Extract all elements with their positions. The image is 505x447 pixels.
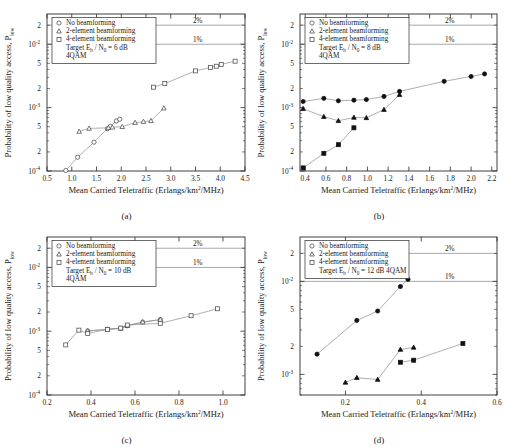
panel-a: 2%1%10-410-310-2252520.51.01.52.02.53.03…	[0, 0, 253, 223]
svg-text:1%: 1%	[193, 259, 203, 267]
svg-text:10-3: 10-3	[281, 369, 293, 379]
svg-text:0.6: 0.6	[130, 398, 140, 407]
svg-text:2.0: 2.0	[466, 174, 476, 183]
svg-text:10-3: 10-3	[28, 326, 40, 336]
svg-text:4-element beamforming: 4-element beamforming	[66, 258, 136, 266]
svg-text:1.5: 1.5	[92, 174, 102, 183]
svg-text:1%: 1%	[193, 36, 203, 44]
svg-text:0.8: 0.8	[342, 174, 352, 183]
svg-text:2: 2	[290, 21, 294, 30]
svg-text:10-2: 10-2	[28, 39, 40, 49]
svg-text:Probability of low quality acc: Probability of low quality access, Plow	[3, 251, 15, 381]
svg-text:2: 2	[37, 147, 41, 156]
svg-text:Probability of low quality acc: Probability of low quality access, Plow	[3, 27, 15, 157]
svg-text:5: 5	[37, 122, 41, 131]
svg-text:5: 5	[290, 59, 294, 68]
panel-c-plot: 2%1%10-410-310-2252520.20.40.60.81.0Mean…	[0, 223, 253, 447]
svg-text:2: 2	[290, 249, 294, 258]
svg-text:2-element beamforming: 2-element beamforming	[66, 27, 136, 35]
svg-text:2: 2	[37, 21, 41, 30]
svg-text:0.8: 0.8	[174, 398, 184, 407]
svg-text:10-4: 10-4	[28, 389, 40, 399]
svg-text:0.2: 0.2	[42, 398, 52, 407]
svg-text:4QAM: 4QAM	[319, 52, 340, 60]
svg-text:2: 2	[37, 244, 41, 253]
svg-text:10-2: 10-2	[281, 276, 293, 286]
svg-text:3.0: 3.0	[166, 174, 176, 183]
panel-a-caption: (a)	[0, 211, 253, 221]
svg-text:4QAM: 4QAM	[66, 275, 87, 283]
svg-text:Mean Carried Teletraffic (Erla: Mean Carried Teletraffic (Erlangs/km2/MH…	[321, 185, 476, 195]
svg-text:10-4: 10-4	[281, 165, 293, 175]
svg-text:2-element beamforming: 2-element beamforming	[66, 250, 136, 258]
svg-text:0.6: 0.6	[321, 174, 331, 183]
svg-text:No beamforming: No beamforming	[319, 19, 369, 27]
panel-b-plot: 2%1%10-410-310-2252520.40.60.81.01.21.41…	[253, 0, 505, 223]
svg-text:0.2: 0.2	[341, 398, 351, 407]
svg-text:Target Eb / N0 = 12 dB 4QAM: Target Eb / N0 = 12 dB 4QAM	[319, 267, 407, 276]
svg-text:1.0: 1.0	[218, 398, 228, 407]
panel-c-caption: (c)	[0, 435, 253, 445]
svg-text:4QAM: 4QAM	[66, 52, 87, 60]
svg-text:0.4: 0.4	[417, 398, 427, 407]
svg-text:2-element beamforming: 2-element beamforming	[319, 250, 389, 258]
svg-text:2%: 2%	[193, 17, 203, 25]
svg-text:2.2: 2.2	[487, 174, 497, 183]
svg-text:4-element beamforming: 4-element beamforming	[66, 35, 136, 43]
svg-text:3.5: 3.5	[191, 174, 201, 183]
svg-text:1.8: 1.8	[446, 174, 456, 183]
figure-grid: 2%1%10-410-310-2252520.51.01.52.02.53.03…	[0, 0, 505, 447]
svg-text:4-element beamforming: 4-element beamforming	[319, 35, 389, 43]
svg-text:1.4: 1.4	[404, 174, 414, 183]
svg-text:No beamforming: No beamforming	[319, 242, 369, 250]
panel-a-plot: 2%1%10-410-310-2252520.51.01.52.02.53.03…	[0, 0, 253, 223]
svg-text:5: 5	[290, 305, 294, 314]
svg-text:5: 5	[290, 122, 294, 131]
svg-text:Mean Carried Teletraffic (Erla: Mean Carried Teletraffic (Erlangs/km2/MH…	[68, 185, 223, 195]
svg-text:No beamforming: No beamforming	[66, 19, 116, 27]
svg-text:2: 2	[37, 307, 41, 316]
svg-text:Mean Carried Teletraffic (Erla: Mean Carried Teletraffic (Erlangs/km2/MH…	[68, 409, 223, 419]
svg-text:1.0: 1.0	[67, 174, 77, 183]
svg-text:5: 5	[37, 346, 41, 355]
svg-text:2-element beamforming: 2-element beamforming	[319, 27, 389, 35]
svg-text:1.6: 1.6	[425, 174, 435, 183]
panel-c: 2%1%10-410-310-2252520.20.40.60.81.0Mean…	[0, 223, 253, 447]
svg-text:0.4: 0.4	[86, 398, 96, 407]
svg-text:2%: 2%	[193, 240, 203, 248]
svg-text:2%: 2%	[445, 245, 455, 253]
svg-text:1%: 1%	[445, 36, 455, 44]
svg-text:2.0: 2.0	[117, 174, 127, 183]
panel-b-caption: (b)	[253, 211, 505, 221]
panel-d-plot: 2%1%10-310-22520.20.40.6Mean Carried Tel…	[253, 223, 505, 447]
svg-text:5: 5	[37, 282, 41, 291]
svg-text:0.6: 0.6	[492, 398, 502, 407]
svg-text:10-2: 10-2	[28, 262, 40, 272]
svg-text:10-2: 10-2	[281, 39, 293, 49]
svg-text:4.0: 4.0	[216, 174, 226, 183]
svg-text:2%: 2%	[445, 17, 455, 25]
svg-text:2.5: 2.5	[141, 174, 151, 183]
svg-text:Mean Carried Teletraffic (Erla: Mean Carried Teletraffic (Erlangs/km2/MH…	[321, 409, 476, 419]
svg-text:2: 2	[290, 84, 294, 93]
svg-text:1.2: 1.2	[384, 174, 394, 183]
svg-text:5: 5	[37, 59, 41, 68]
svg-text:2: 2	[290, 147, 294, 156]
svg-text:10-3: 10-3	[281, 102, 293, 112]
svg-text:Probability of low quality acc: Probability of low quality access, Plow	[256, 27, 268, 157]
svg-text:0.4: 0.4	[301, 174, 311, 183]
panel-d-caption: (d)	[253, 435, 505, 445]
svg-text:1.0: 1.0	[363, 174, 373, 183]
svg-text:2: 2	[290, 342, 294, 351]
svg-text:4-element beamforming: 4-element beamforming	[319, 258, 389, 266]
panel-b: 2%1%10-410-310-2252520.40.60.81.01.21.41…	[253, 0, 505, 223]
svg-text:0.5: 0.5	[42, 174, 52, 183]
svg-text:Probability of low quality acc: Probability of low quality access, Plow	[256, 251, 268, 381]
panel-d: 2%1%10-310-22520.20.40.6Mean Carried Tel…	[253, 223, 505, 447]
svg-text:10-4: 10-4	[28, 165, 40, 175]
svg-text:1%: 1%	[445, 273, 455, 281]
svg-text:2: 2	[37, 84, 41, 93]
svg-text:4.5: 4.5	[240, 174, 250, 183]
svg-text:2: 2	[37, 371, 41, 380]
svg-text:No beamforming: No beamforming	[66, 242, 116, 250]
